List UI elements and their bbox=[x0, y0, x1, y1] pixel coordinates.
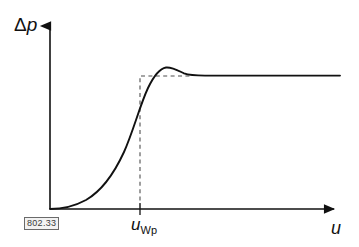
figure-reference-box: 802.33 bbox=[24, 217, 59, 230]
y-axis-label-symbol: p bbox=[27, 14, 38, 35]
x-tick-label-subscript: Wp bbox=[140, 224, 157, 236]
plot-canvas bbox=[0, 0, 359, 247]
pressure-characteristic-figure: Δp u uWp 802.33 bbox=[0, 0, 359, 247]
y-axis-label-delta: Δ bbox=[14, 14, 27, 35]
pressure-rise-curve bbox=[50, 67, 340, 209]
x-axis-label: u bbox=[331, 219, 341, 237]
x-axis-tick-label-working-point: uWp bbox=[131, 216, 157, 236]
y-axis-label: Δp bbox=[14, 15, 37, 34]
